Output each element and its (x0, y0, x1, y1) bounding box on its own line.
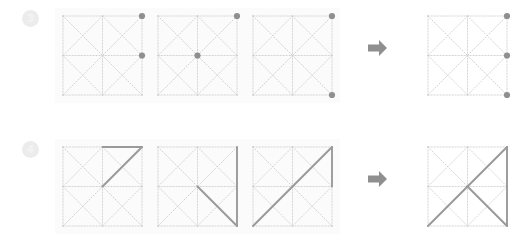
grid-node-dot (427, 55, 429, 57)
panel-4-2-canvas (150, 139, 245, 234)
grid-node-dot (62, 94, 64, 96)
panel-4-3-canvas (245, 139, 340, 234)
marker-dot-bottom-right (329, 92, 335, 98)
grid-node-dot (197, 225, 199, 227)
grid-node-dot (252, 146, 254, 148)
panel-3-2[interactable] (150, 8, 245, 103)
solid-line-center-to-bottom-right (198, 187, 238, 227)
grid-node-dot (102, 225, 104, 227)
grid-node-dot (467, 94, 469, 96)
grid-line-cell-br-diag-up (103, 187, 143, 227)
grid-node-dot (62, 186, 64, 188)
panel-3-1-canvas (55, 8, 150, 103)
grid-line-cell-bl-diag-up (158, 56, 198, 96)
grid-node-dot (141, 225, 143, 227)
panel-3-2-canvas (150, 8, 245, 103)
marker-dot-center (194, 52, 200, 58)
grid-node-dot (427, 15, 429, 17)
grid-node-dot (62, 146, 64, 148)
marker-dot-middle-right (504, 52, 510, 58)
grid-node-dot (252, 15, 254, 17)
puzzle-row-4: 4 (0, 133, 532, 243)
panel-4-1[interactable] (55, 139, 150, 234)
marker-dot-middle-right (139, 52, 145, 58)
grid-node-dot (331, 55, 333, 57)
grid-line-cell-bl-diag-up (63, 187, 103, 227)
panel-3-3[interactable] (245, 8, 340, 103)
grid-node-dot (62, 55, 64, 57)
grid-node-dot (236, 55, 238, 57)
grid-node-dot (157, 55, 159, 57)
grid-line-cell-bl-diag-up (253, 56, 293, 96)
solid-line-center-to-bottom-right (468, 187, 508, 227)
grid-node-dot (252, 186, 254, 188)
grid-node-dot (467, 15, 469, 17)
grid-node-dot (141, 186, 143, 188)
grid-node-dot (157, 146, 159, 148)
panel-4-3[interactable] (245, 139, 340, 234)
grid-line-cell-tr-diag-up (198, 16, 238, 56)
panel-4-1-canvas (55, 139, 150, 234)
grid-line-cell-bl-diag-up (63, 56, 103, 96)
panel-3-1[interactable] (55, 8, 150, 103)
grid-node-dot (292, 94, 294, 96)
grid-node-dot (331, 225, 333, 227)
grid-line-cell-br-diag-up (468, 56, 508, 96)
grid-node-dot (292, 15, 294, 17)
grid-node-dot (427, 186, 429, 188)
grid-node-dot (62, 15, 64, 17)
marker-dot-top-right (329, 13, 335, 19)
panel-3-3-canvas (245, 8, 340, 103)
solid-line-center-to-top-right (103, 147, 143, 187)
grid-line-cell-br-diag-up (293, 187, 333, 227)
grid-line-cell-bl-diag-up (428, 56, 468, 96)
marker-dot-bottom-right (504, 92, 510, 98)
grid-node-dot (102, 15, 104, 17)
grid-node-dot (427, 94, 429, 96)
panel-4-result-canvas (420, 139, 515, 234)
marker-dot-top-right (504, 13, 510, 19)
grid-node-dot (62, 225, 64, 227)
grid-node-dot (197, 146, 199, 148)
grid-line-cell-tl-diag-up (158, 147, 198, 187)
grid-line-cell-tl-diag-up (253, 16, 293, 56)
grid-line-cell-tl-diag-up (428, 147, 468, 187)
panel-3-result-canvas (420, 8, 515, 103)
grid-node-dot (197, 15, 199, 17)
grid-node-dot (467, 225, 469, 227)
grid-node-dot (236, 94, 238, 96)
grid-node-dot (427, 146, 429, 148)
grid-node-dot (197, 94, 199, 96)
grid-line-cell-tl-diag-up (428, 16, 468, 56)
grid-line-cell-tl-diag-up (158, 16, 198, 56)
grid-node-dot (252, 94, 254, 96)
panel-3-result[interactable] (420, 8, 515, 103)
grid-node-dot (292, 55, 294, 57)
grid-line-cell-tl-diag-up (63, 16, 103, 56)
panel-4-2[interactable] (150, 139, 245, 234)
row-badge-4: 4 (22, 141, 39, 158)
grid-line-cell-tl-diag-up (63, 147, 103, 187)
puzzle-stage: 3 4 (0, 0, 532, 245)
grid-node-dot (157, 94, 159, 96)
puzzle-row-3: 3 (0, 2, 532, 112)
grid-node-dot (102, 94, 104, 96)
grid-node-dot (467, 146, 469, 148)
grid-node-dot (292, 225, 294, 227)
grid-node-dot (292, 146, 294, 148)
grid-line-cell-br-diag-up (198, 56, 238, 96)
panel-4-result[interactable] (420, 139, 515, 234)
grid-line-cell-br-diag-up (293, 56, 333, 96)
arrow-right-icon (364, 35, 390, 61)
marker-dot-top-right (234, 13, 240, 19)
grid-line-cell-tr-diag-up (103, 16, 143, 56)
grid-node-dot (157, 225, 159, 227)
marker-dot-top-right (139, 13, 145, 19)
grid-node-dot (157, 186, 159, 188)
grid-line-cell-bl-diag-up (158, 187, 198, 227)
grid-node-dot (157, 15, 159, 17)
grid-node-dot (467, 55, 469, 57)
grid-node-dot (141, 94, 143, 96)
grid-line-cell-tr-diag-up (293, 16, 333, 56)
grid-line-cell-tr-diag-up (468, 16, 508, 56)
